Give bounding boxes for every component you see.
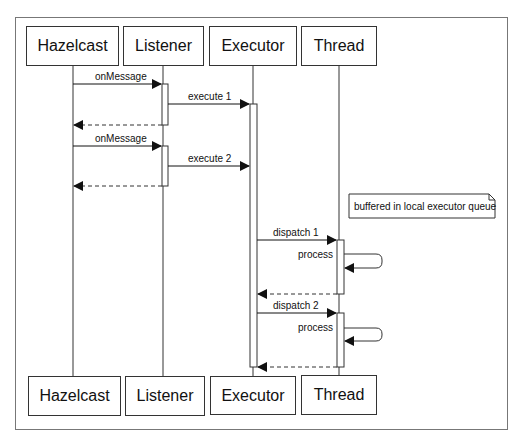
message-label: execute 2 <box>188 153 232 164</box>
message-process-1 <box>344 254 382 268</box>
activation-listener-2 <box>162 146 168 186</box>
participant-thread-bottom: Thread <box>301 375 377 415</box>
activation-executor <box>250 104 257 367</box>
note-text: buffered in local executor queue <box>354 201 497 212</box>
message-label: dispatch 2 <box>273 300 319 311</box>
message-process-2 <box>344 328 382 341</box>
message-label: onMessage <box>95 133 147 144</box>
message-label: process <box>298 249 333 260</box>
participant-executor-bottom: Executor <box>210 376 296 415</box>
participant-hazelcast-bottom: Hazelcast <box>28 376 121 416</box>
message-label: execute 1 <box>188 91 232 102</box>
message-label: process <box>298 322 333 333</box>
activation-thread-2 <box>337 313 344 367</box>
activation-listener-1 <box>162 84 168 125</box>
message-label: onMessage <box>95 71 147 82</box>
activation-thread-1 <box>337 240 344 294</box>
message-label: dispatch 1 <box>273 227 319 238</box>
participant-listener-bottom: Listener <box>125 376 205 416</box>
